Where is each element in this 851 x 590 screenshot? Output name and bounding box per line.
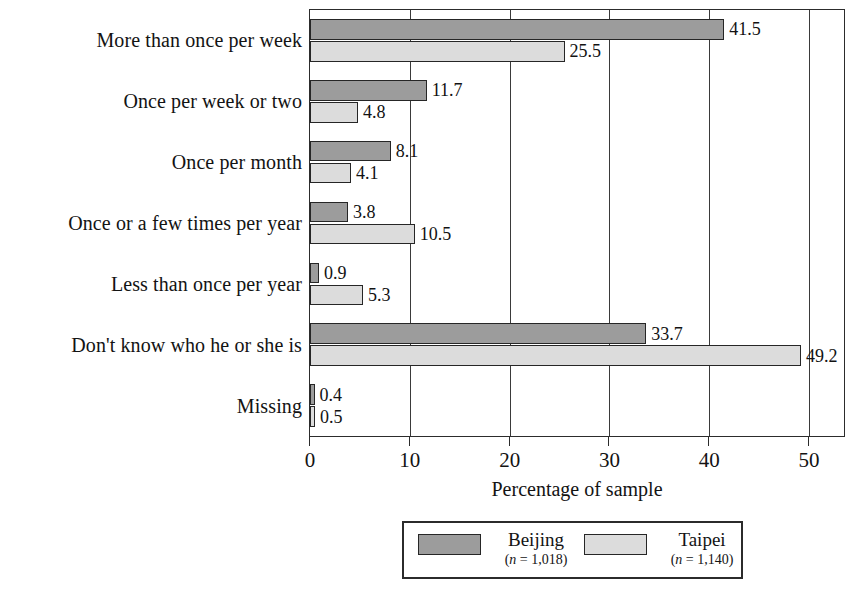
legend: Beijing (n = 1,018) Taipei (n = 1,140) bbox=[402, 521, 743, 579]
legend-label-taipei: Taipei bbox=[678, 529, 725, 550]
legend-n-beijing: (n = 1,018) bbox=[505, 552, 568, 567]
bar-taipei-1 bbox=[310, 102, 358, 123]
bars-layer: 41.525.511.74.88.14.13.810.50.95.333.749… bbox=[310, 10, 844, 436]
category-axis-labels: More than once per weekOnce per week or … bbox=[0, 10, 302, 438]
bar-value-taipei-2: 4.1 bbox=[356, 164, 379, 182]
bar-taipei-3 bbox=[310, 224, 415, 245]
bar-beijing-1 bbox=[310, 80, 427, 101]
x-tick-0 bbox=[309, 437, 310, 446]
bar-chart-figure: More than once per weekOnce per week or … bbox=[0, 0, 851, 590]
category-label-6: Missing bbox=[0, 395, 302, 417]
bar-value-beijing-4: 0.9 bbox=[324, 264, 347, 282]
bar-value-taipei-5: 49.2 bbox=[806, 347, 838, 365]
bar-value-taipei-1: 4.8 bbox=[363, 103, 386, 121]
legend-n-value-beijing: = 1,018) bbox=[516, 552, 567, 567]
x-tick-label-30: 30 bbox=[579, 448, 639, 472]
x-tick-30 bbox=[608, 437, 609, 446]
bar-value-taipei-0: 25.5 bbox=[570, 42, 602, 60]
x-tick-label-50: 50 bbox=[779, 448, 839, 472]
bar-value-beijing-6: 0.4 bbox=[320, 386, 343, 404]
bar-beijing-5 bbox=[310, 323, 646, 344]
bar-value-beijing-5: 33.7 bbox=[651, 325, 683, 343]
x-tick-label-40: 40 bbox=[679, 448, 739, 472]
category-label-0: More than once per week bbox=[0, 29, 302, 51]
bar-value-beijing-0: 41.5 bbox=[729, 20, 761, 38]
legend-n-taipei: (n = 1,140) bbox=[671, 552, 734, 567]
bar-beijing-0 bbox=[310, 19, 724, 40]
category-label-5: Don't know who he or she is bbox=[0, 334, 302, 356]
bar-value-beijing-1: 11.7 bbox=[432, 81, 463, 99]
legend-text-beijing: Beijing (n = 1,018) bbox=[490, 529, 582, 568]
x-tick-label-0: 0 bbox=[280, 448, 340, 472]
x-tick-label-10: 10 bbox=[380, 448, 440, 472]
legend-swatch-beijing bbox=[418, 534, 481, 555]
legend-swatch-taipei bbox=[584, 534, 647, 555]
x-tick-label-20: 20 bbox=[480, 448, 540, 472]
x-tick-50 bbox=[808, 437, 809, 446]
bar-beijing-4 bbox=[310, 263, 319, 284]
x-axis-title: Percentage of sample bbox=[309, 478, 845, 501]
category-label-3: Once or a few times per year bbox=[0, 212, 302, 234]
x-tick-40 bbox=[708, 437, 709, 446]
category-label-4: Less than once per year bbox=[0, 273, 302, 295]
x-tick-20 bbox=[509, 437, 510, 446]
bar-taipei-5 bbox=[310, 345, 801, 366]
category-label-1: Once per week or two bbox=[0, 90, 302, 112]
bar-taipei-2 bbox=[310, 163, 351, 184]
bar-value-taipei-4: 5.3 bbox=[368, 286, 391, 304]
bar-beijing-6 bbox=[310, 384, 315, 405]
bar-value-taipei-3: 10.5 bbox=[420, 225, 452, 243]
bar-beijing-2 bbox=[310, 141, 391, 162]
category-label-2: Once per month bbox=[0, 151, 302, 173]
x-axis-line bbox=[309, 436, 845, 437]
bar-taipei-0 bbox=[310, 41, 565, 62]
bar-value-beijing-3: 3.8 bbox=[353, 203, 376, 221]
legend-text-taipei: Taipei (n = 1,140) bbox=[656, 529, 748, 568]
bar-taipei-4 bbox=[310, 285, 363, 306]
x-tick-10 bbox=[409, 437, 410, 446]
legend-label-beijing: Beijing bbox=[508, 529, 564, 550]
bar-value-beijing-2: 8.1 bbox=[396, 142, 419, 160]
bar-beijing-3 bbox=[310, 202, 348, 223]
legend-n-value-taipei: = 1,140) bbox=[682, 552, 733, 567]
bar-taipei-6 bbox=[310, 406, 315, 427]
bar-value-taipei-6: 0.5 bbox=[320, 408, 343, 426]
